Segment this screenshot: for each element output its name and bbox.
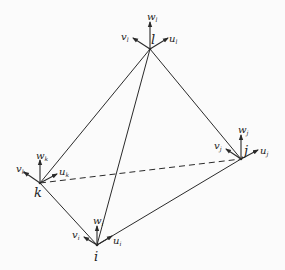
v-label-j: vj: [214, 140, 222, 153]
edges: [40, 49, 241, 245]
v-label-k: vk: [16, 163, 26, 175]
node-dot-j: [240, 158, 243, 161]
edge-k-j-hidden: [40, 159, 241, 183]
tetrahedron-diagram: l wl vl ul k wk vk uk j wj vj uj i wi vi…: [0, 0, 285, 270]
v-arrow-l: [133, 38, 150, 49]
edge-l-i: [97, 49, 150, 245]
edge-l-j: [150, 49, 241, 159]
node-dot-i: [96, 244, 99, 247]
v-label-i: vi: [72, 229, 80, 241]
v-label-l: vl: [121, 31, 129, 43]
node-label-k: k: [34, 185, 42, 200]
u-label-i: ui: [113, 235, 121, 247]
u-label-k: uk: [59, 166, 69, 178]
edge-k-i: [40, 183, 97, 245]
node-dot-k: [39, 182, 42, 185]
w-label-j: wj: [238, 124, 249, 137]
diagram-svg: l wl vl ul k wk vk uk j wj vj uj i wi vi…: [0, 0, 285, 270]
node-dot-l: [149, 48, 152, 51]
w-label-i: wi: [93, 215, 104, 227]
node-label-j: j: [241, 143, 248, 158]
node-label-l: l: [151, 32, 155, 47]
u-label-l: ul: [169, 33, 177, 45]
v-arrow-k: [24, 172, 40, 183]
w-label-l: wl: [147, 11, 158, 23]
node-label-i: i: [94, 249, 98, 264]
node-k-arrows: [24, 160, 57, 183]
u-label-j: uj: [260, 145, 268, 158]
edge-i-j: [97, 159, 241, 245]
edge-l-k: [40, 49, 150, 183]
w-label-k: wk: [36, 150, 49, 162]
